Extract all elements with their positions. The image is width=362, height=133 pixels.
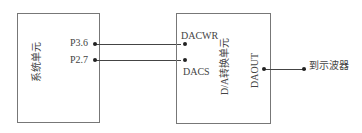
da-unit-label: D/A转换单元: [220, 38, 230, 95]
pin-dacwr-label: DACWR: [181, 31, 218, 41]
pin-dacs-label: DACS: [183, 67, 210, 77]
oscilloscope-label: 到示波器: [309, 61, 349, 71]
pin-p36-dot: [93, 42, 97, 46]
pin-daout-dot: [262, 67, 266, 71]
system-unit-label: 系统单元: [32, 42, 42, 82]
pin-daout-label: DAOUT: [250, 53, 260, 88]
pin-dacwr-dot: [183, 42, 187, 46]
wire-p27-dacs: [95, 60, 181, 61]
pin-p27-dot: [93, 58, 97, 62]
pin-dacs-dot: [183, 58, 187, 62]
wire-p36-dacwr: [95, 44, 181, 45]
system-unit-block: [17, 13, 100, 123]
pin-p27-label: P2.7: [70, 55, 88, 65]
wire-daout-scope: [264, 69, 306, 70]
scope-terminal-dot: [302, 67, 306, 71]
pin-p36-label: P3.6: [70, 38, 88, 48]
